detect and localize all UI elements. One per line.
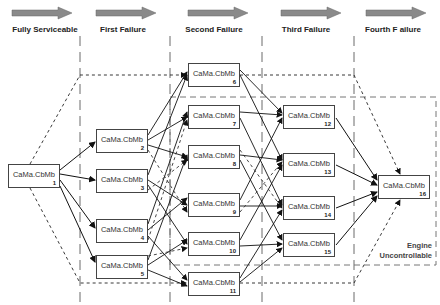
stage-label-fully-serviceable: Fully Serviceable <box>0 25 90 34</box>
state-node-5: CaMa.CbMb5 <box>96 255 148 279</box>
node-label: CaMa.CbMb <box>284 159 334 168</box>
node-number: 3 <box>141 185 144 191</box>
stage-label-second-failure: Second Failure <box>169 25 259 34</box>
node-label: CaMa.CbMb <box>189 69 239 78</box>
state-node-16: CaMa.CbMb16 <box>378 175 430 199</box>
node-number: 7 <box>233 121 236 127</box>
node-label: CaMa.CbMb <box>379 181 429 190</box>
state-node-13: CaMa.CbMb13 <box>283 153 335 177</box>
node-label: CaMa.CbMb <box>189 111 239 120</box>
note-line-2: Uncontrollable <box>360 251 432 261</box>
node-number: 13 <box>324 169 331 175</box>
node-number: 5 <box>141 271 144 277</box>
transitions-stage1 <box>60 142 95 262</box>
transitions-stage3 <box>240 70 282 282</box>
node-number: 4 <box>141 235 144 241</box>
node-label: CaMa.CbMb <box>284 202 334 211</box>
node-label: CaMa.CbMb <box>189 278 239 287</box>
node-number: 10 <box>229 248 236 254</box>
node-label: CaMa.CbMb <box>9 170 59 179</box>
node-label: CaMa.CbMb <box>97 261 147 270</box>
state-node-6: CaMa.CbMb6 <box>188 63 240 87</box>
state-node-7: CaMa.CbMb7 <box>188 105 240 129</box>
node-number: 12 <box>324 121 331 127</box>
state-node-9: CaMa.CbMb9 <box>188 193 240 217</box>
node-number: 6 <box>233 79 236 85</box>
node-number: 15 <box>324 249 331 255</box>
node-label: CaMa.CbMb <box>97 225 147 234</box>
state-node-3: CaMa.CbMb3 <box>96 169 148 193</box>
node-number: 16 <box>419 191 426 197</box>
stage-label-fourth-failure: Fourth F ailure <box>348 25 438 34</box>
node-label: CaMa.CbMb <box>97 135 147 144</box>
state-node-2: CaMa.CbMb2 <box>96 129 148 153</box>
stage-label-first-failure: First Failure <box>78 25 168 34</box>
stage-label-third-failure: Third Failure <box>261 25 351 34</box>
node-number: 9 <box>233 209 236 215</box>
node-label: CaMa.CbMb <box>284 239 334 248</box>
state-node-8: CaMa.CbMb8 <box>188 145 240 169</box>
transitions-stage2 <box>148 72 187 286</box>
node-number: 11 <box>230 288 236 294</box>
state-node-4: CaMa.CbMb4 <box>96 219 148 243</box>
node-number: 14 <box>324 212 331 218</box>
transitions-stage4 <box>336 118 377 245</box>
node-label: CaMa.CbMb <box>189 199 239 208</box>
stage-arrows <box>12 7 426 19</box>
note-line-1: Engine <box>360 241 432 251</box>
state-node-12: CaMa.CbMb12 <box>283 105 335 129</box>
state-node-1: CaMa.CbMb1 <box>8 164 60 188</box>
engine-uncontrollable-label: Engine Uncontrollable <box>360 241 432 261</box>
node-label: CaMa.CbMb <box>189 151 239 160</box>
node-label: CaMa.CbMb <box>97 175 147 184</box>
node-number: 8 <box>233 161 236 167</box>
state-node-14: CaMa.CbMb14 <box>283 196 335 220</box>
state-node-15: CaMa.CbMb15 <box>283 233 335 257</box>
node-label: CaMa.CbMb <box>189 238 239 247</box>
node-number: 1 <box>53 180 56 186</box>
state-node-10: CaMa.CbMb10 <box>188 232 240 256</box>
node-number: 2 <box>141 145 144 151</box>
node-label: CaMa.CbMb <box>284 111 334 120</box>
state-node-11: CaMa.CbMb11 <box>188 272 240 296</box>
